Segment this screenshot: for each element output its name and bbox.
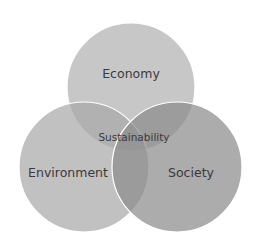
society-label: Society [168, 165, 214, 180]
environment-label: Environment [28, 165, 108, 180]
economy-label: Economy [102, 66, 160, 81]
venn-diagram [0, 0, 256, 247]
sustainability-label: Sustainability [98, 131, 169, 143]
